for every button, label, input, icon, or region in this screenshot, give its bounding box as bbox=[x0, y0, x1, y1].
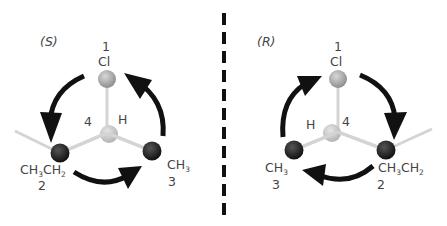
chlorine-label: Cl bbox=[98, 56, 110, 69]
chlorine-atom bbox=[98, 70, 116, 88]
chlorine-label: Cl bbox=[330, 56, 342, 69]
methyl-group-label: CH3 bbox=[167, 159, 190, 174]
ethyl-group-label: CH3CH2 bbox=[378, 162, 424, 177]
priority-4-label: 4 bbox=[342, 116, 350, 129]
priority-4-label: 4 bbox=[84, 116, 92, 129]
priority-2-label: 2 bbox=[377, 179, 385, 192]
ethyl-carbon-atom bbox=[51, 144, 70, 163]
r-configuration-label: (R) bbox=[257, 36, 275, 49]
priority-3-label: 3 bbox=[272, 179, 280, 192]
ethyl-group-label: CH3CH2 bbox=[20, 164, 66, 179]
methyl-carbon-atom bbox=[285, 141, 304, 160]
s-configuration-label: (S) bbox=[40, 36, 58, 49]
ethyl-carbon-atom bbox=[377, 141, 396, 160]
priority-3-label: 3 bbox=[168, 176, 176, 189]
chlorine-atom bbox=[329, 70, 347, 88]
methyl-group-label: CH3 bbox=[265, 162, 288, 177]
priority-1-label: 1 bbox=[334, 41, 342, 54]
priority-2-label: 2 bbox=[38, 180, 46, 193]
hydrogen-label: H bbox=[306, 119, 315, 132]
priority-1-label: 1 bbox=[102, 41, 110, 54]
methyl-carbon-atom bbox=[143, 142, 162, 161]
hydrogen-label: H bbox=[118, 114, 127, 127]
diagram-canvas bbox=[0, 0, 447, 226]
